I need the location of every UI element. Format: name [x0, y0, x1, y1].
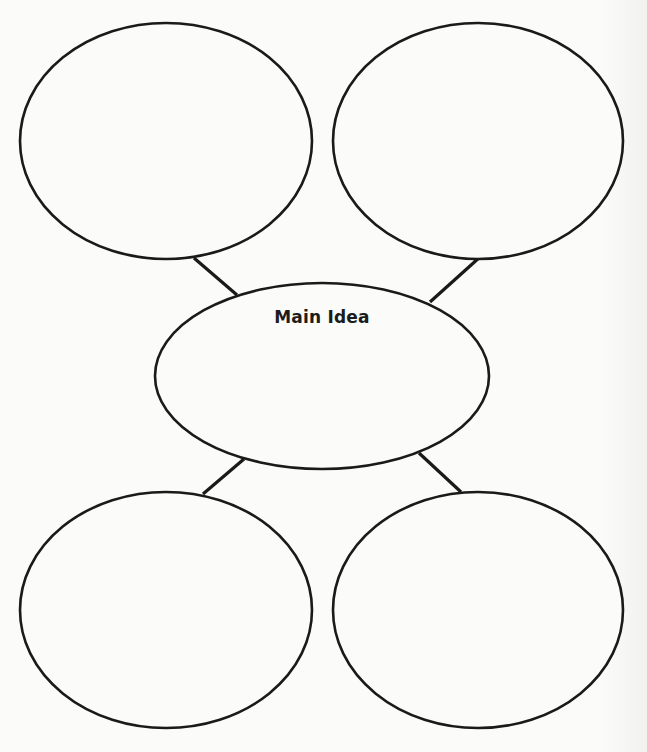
- connector-line-bottom-left: [203, 459, 244, 494]
- detail-ellipse-bottom-left: [20, 492, 312, 728]
- main-idea-label: Main Idea: [222, 303, 422, 331]
- detail-ellipse-bottom-right: [333, 492, 623, 728]
- idea-ellipses: [20, 23, 623, 728]
- detail-ellipse-top-left: [20, 23, 312, 259]
- detail-ellipse-top-right: [333, 23, 623, 259]
- connector-line-top-left: [194, 258, 237, 295]
- connector-line-top-right: [430, 257, 480, 302]
- worksheet-page: Main Idea: [0, 0, 647, 752]
- connector-line-bottom-right: [419, 453, 461, 492]
- main-idea-diagram: [0, 0, 647, 752]
